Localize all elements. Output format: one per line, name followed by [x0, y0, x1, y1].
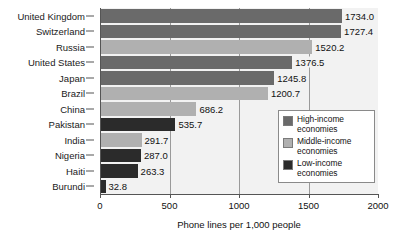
- category-label: Nigeria: [55, 150, 85, 161]
- legend-item-high-income: High-incomeeconomies: [283, 115, 370, 134]
- x-axis-tick-mark: [378, 194, 379, 198]
- bar-value-label: 535.7: [175, 119, 202, 130]
- y-axis-tick: [86, 124, 94, 125]
- legend-label-middle-income: Middle-incomeeconomies: [297, 137, 351, 156]
- bar-value-label: 287.0: [141, 150, 168, 161]
- bar-row[interactable]: Japan1245.8: [0, 70, 397, 86]
- y-axis-tick: [86, 186, 94, 187]
- legend-item-middle-income: Middle-incomeeconomies: [283, 137, 370, 156]
- category-label: United Kingdom: [17, 10, 85, 21]
- bar[interactable]: [101, 149, 141, 163]
- category-label: Burundi: [52, 181, 85, 192]
- bar[interactable]: [101, 9, 342, 23]
- x-axis-tick-label: 500: [162, 200, 178, 211]
- legend-label-high-income: High-incomeeconomies: [297, 115, 344, 134]
- bar[interactable]: [101, 118, 175, 132]
- bar-value-label: 1727.4: [341, 26, 373, 37]
- legend-swatch-high-income: [283, 116, 293, 126]
- bar-value-label: 32.8: [106, 181, 128, 192]
- bar-row[interactable]: Brazil1200.7: [0, 86, 397, 102]
- category-label: United States: [28, 57, 85, 68]
- x-axis-tick-mark: [309, 194, 310, 198]
- bar[interactable]: [101, 56, 292, 70]
- y-axis-tick: [86, 155, 94, 156]
- legend: High-incomeeconomies Middle-incomeeconom…: [278, 110, 375, 183]
- bar-value-label: 686.2: [196, 103, 223, 114]
- x-axis-tick-label: 1000: [228, 200, 249, 211]
- legend-swatch-middle-income: [283, 138, 293, 148]
- bar-row[interactable]: Switzerland1727.4: [0, 24, 397, 40]
- bar-value-label: 1520.2: [312, 41, 344, 52]
- legend-swatch-low-income: [283, 160, 293, 170]
- y-axis-tick: [86, 77, 94, 78]
- y-axis-tick: [86, 170, 94, 171]
- bar[interactable]: [101, 164, 138, 178]
- y-axis-tick: [86, 31, 94, 32]
- bar[interactable]: [101, 71, 274, 85]
- x-axis-tick-mark: [239, 194, 240, 198]
- bar-value-label: 1200.7: [268, 88, 300, 99]
- y-axis-tick: [86, 62, 94, 63]
- x-axis-tick-mark: [100, 194, 101, 198]
- category-label: Russia: [56, 41, 85, 52]
- bar[interactable]: [101, 133, 142, 147]
- y-axis-tick: [86, 139, 94, 140]
- category-label: India: [64, 134, 85, 145]
- bar-value-label: 1734.0: [342, 10, 374, 21]
- category-label: Brazil: [61, 88, 85, 99]
- x-axis-tick-label: 0: [97, 200, 102, 211]
- legend-item-low-income: Low-incomeeconomies: [283, 159, 370, 178]
- category-label: China: [60, 103, 85, 114]
- bar-row[interactable]: Russia1520.2: [0, 39, 397, 55]
- bar-chart: United Kingdom1734.0Switzerland1727.4Rus…: [0, 0, 397, 237]
- category-label: Japan: [59, 72, 85, 83]
- bar[interactable]: [101, 40, 312, 54]
- category-label: Pakistan: [49, 119, 85, 130]
- y-axis-tick: [86, 46, 94, 47]
- x-axis-tick-label: 2000: [367, 200, 388, 211]
- bar[interactable]: [101, 102, 196, 116]
- bar-row[interactable]: United States1376.5: [0, 55, 397, 71]
- y-axis-tick: [86, 15, 94, 16]
- y-axis-tick: [86, 93, 94, 94]
- x-axis-title: Phone lines per 1,000 people: [100, 219, 378, 230]
- bar-value-label: 1376.5: [292, 57, 324, 68]
- bar[interactable]: [101, 25, 341, 39]
- bar[interactable]: [101, 87, 268, 101]
- bar-value-label: 1245.8: [274, 72, 306, 83]
- bar-value-label: 263.3: [138, 165, 165, 176]
- legend-label-low-income: Low-incomeeconomies: [297, 159, 342, 178]
- x-axis-tick-label: 1500: [298, 200, 319, 211]
- category-label: Haiti: [66, 165, 85, 176]
- bar-row[interactable]: United Kingdom1734.0: [0, 8, 397, 24]
- category-label: Switzerland: [36, 26, 85, 37]
- bar-value-label: 291.7: [142, 134, 169, 145]
- x-axis-tick-mark: [170, 194, 171, 198]
- y-axis-tick: [86, 108, 94, 109]
